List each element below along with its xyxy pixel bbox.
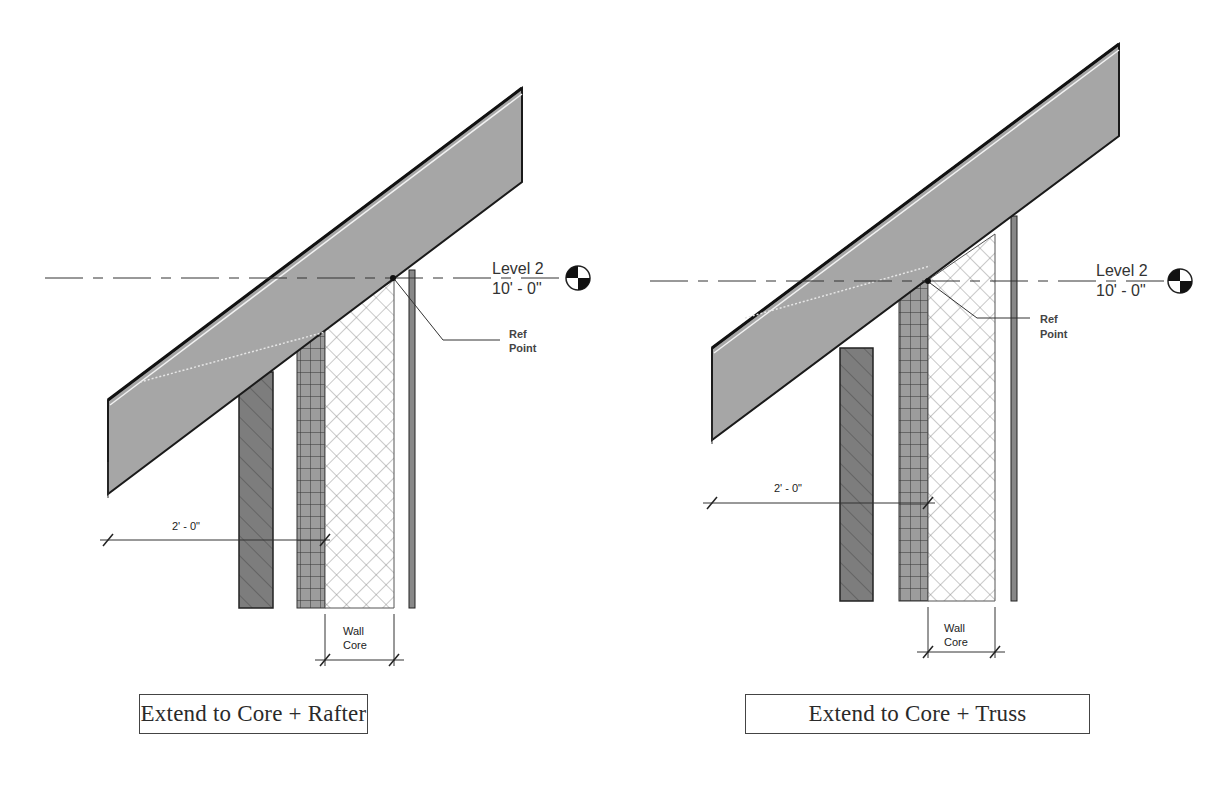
- ref-label-2: Point: [509, 342, 537, 354]
- sheathing-layer: [297, 332, 325, 608]
- interior-finish: [1011, 216, 1017, 601]
- ref-label-1: Ref: [1040, 313, 1058, 325]
- figure-rafter: Ref Point Level 2 10' - 0" 2' - 0" Wall …: [45, 88, 590, 666]
- overhang-dimension: 2' - 0": [774, 482, 802, 494]
- brick-layer: [239, 372, 273, 608]
- insulation-core: [325, 280, 394, 608]
- level-name: Level 2: [492, 260, 544, 277]
- interior-finish: [409, 270, 415, 608]
- wall-core-label-1: Wall: [944, 622, 965, 634]
- sheathing-layer: [899, 282, 928, 601]
- level-target-icon: [1168, 269, 1192, 293]
- brick-layer: [840, 348, 873, 601]
- level-target-icon: [566, 266, 590, 290]
- figure-truss: Ref Point Level 2 10' - 0" 2' - 0" Wall …: [650, 44, 1192, 658]
- level-elevation: 10' - 0": [1096, 282, 1146, 299]
- ref-label-2: Point: [1040, 328, 1068, 340]
- caption-rafter: Extend to Core + Rafter: [139, 694, 368, 734]
- level-name: Level 2: [1096, 262, 1148, 279]
- caption-truss: Extend to Core + Truss: [745, 694, 1090, 734]
- wall-core-label-1: Wall: [343, 625, 364, 637]
- wall-core-label-2: Core: [343, 639, 367, 651]
- level-elevation: 10' - 0": [492, 280, 542, 297]
- overhang-dimension: 2' - 0": [172, 520, 200, 532]
- diagram-canvas: Ref Point Level 2 10' - 0" 2' - 0" Wall …: [0, 0, 1232, 796]
- wall-core-label-2: Core: [944, 636, 968, 648]
- ref-label-1: Ref: [509, 328, 527, 340]
